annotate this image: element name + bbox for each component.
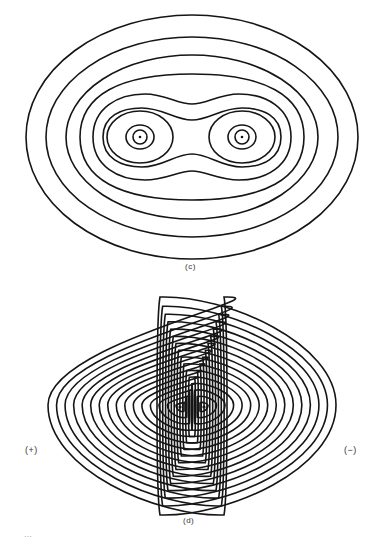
contour-6-peanut	[103, 108, 281, 167]
panel-c-contours	[26, 15, 358, 259]
contour-4	[80, 74, 304, 200]
contour-5-peanut	[93, 94, 291, 180]
panel-d-label: (d)	[183, 516, 194, 525]
nucleus-left-dot	[139, 136, 142, 139]
panel-c-label: (c)	[185, 262, 196, 271]
nucleus-right-dot	[241, 136, 244, 139]
negative-lobe-sign-label: (−)	[344, 445, 357, 455]
positive-lobe-sign-label: (+)	[25, 445, 38, 455]
lobe-center-dot	[202, 405, 205, 408]
truncated-caption-line: ···	[24, 533, 364, 539]
contour-outer-2	[46, 37, 338, 237]
contour-outer-1	[26, 15, 358, 259]
